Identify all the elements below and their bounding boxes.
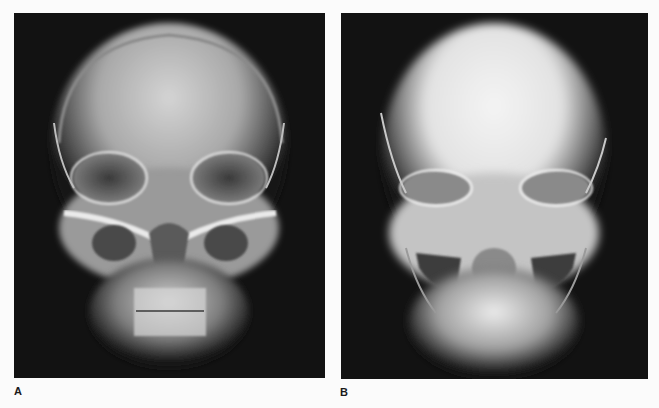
panel-label-b: B [340,386,348,398]
skull-xray-image-b [341,13,648,379]
xray-panel-b [341,13,648,379]
skull-xray-image-a [14,13,325,378]
xray-panel-a [14,13,325,378]
panel-label-a: A [14,385,22,397]
